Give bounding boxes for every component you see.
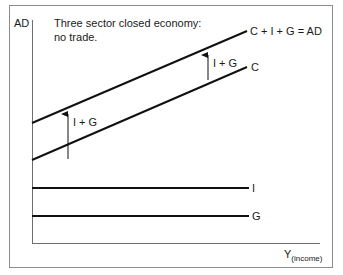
x-axis-label-subscript: (income)	[291, 254, 322, 263]
annotation-subtitle: no trade.	[54, 31, 97, 43]
annotation-title: Three sector closed economy:	[54, 17, 201, 29]
investment-line-label: I	[252, 182, 255, 194]
ad-diagram: AD Y(income) Three sector closed economy…	[0, 0, 343, 275]
shift-arrow-right-label: I + G	[213, 57, 237, 69]
government-line-label: G	[252, 210, 261, 222]
figure-frame	[10, 6, 333, 268]
consumption-line-label: C	[251, 61, 259, 73]
ad-line-label: C + I + G = AD	[250, 25, 322, 37]
shift-arrow-left-label: I + G	[73, 116, 97, 128]
y-axis-label: AD	[14, 17, 29, 29]
